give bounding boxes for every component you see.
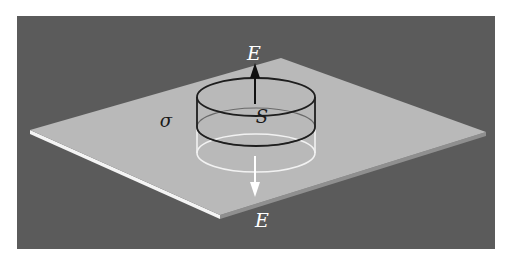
gauss-pillbox-diagram: E S σ E [0,0,505,258]
label-field-up: E [246,42,261,64]
label-field-down: E [254,209,269,231]
label-charge-density: σ [160,110,173,131]
label-surface: S [256,106,268,127]
